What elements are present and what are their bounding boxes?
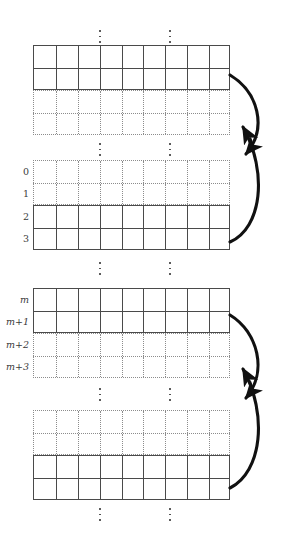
cell-separator bbox=[100, 334, 101, 356]
cell-separator bbox=[56, 411, 57, 433]
cell-separator bbox=[143, 161, 144, 183]
cell-separator bbox=[209, 434, 210, 455]
cell-separator bbox=[143, 91, 144, 113]
cell-separator bbox=[143, 479, 144, 500]
cell-separator bbox=[56, 206, 57, 228]
cell-separator bbox=[187, 434, 188, 455]
cell-separator bbox=[100, 114, 101, 135]
block-3-row-0: m bbox=[33, 288, 230, 311]
cell-separator bbox=[78, 91, 79, 113]
cell-separator bbox=[143, 312, 144, 333]
cell-separator bbox=[187, 161, 188, 183]
vertical-ellipsis-icon bbox=[99, 30, 101, 43]
arrow-lower-down bbox=[230, 315, 258, 398]
row-index-label: 1 bbox=[23, 189, 29, 199]
cell-separator bbox=[187, 46, 188, 68]
cell-separator bbox=[100, 184, 101, 205]
row-index-label: m+3 bbox=[6, 362, 29, 372]
cell-separator bbox=[143, 46, 144, 68]
cell-separator bbox=[78, 46, 79, 68]
cell-separator bbox=[187, 312, 188, 333]
cell-separator bbox=[56, 91, 57, 113]
cell-separator bbox=[56, 312, 57, 333]
block-1-row-1 bbox=[33, 68, 230, 91]
cell-separator bbox=[209, 161, 210, 183]
cell-separator bbox=[143, 229, 144, 250]
vertical-ellipsis-icon bbox=[99, 143, 101, 156]
cell-separator bbox=[187, 69, 188, 90]
memory-layout-diagram: 0123mm+1m+2m+3 bbox=[0, 0, 295, 538]
cell-separator bbox=[122, 456, 123, 478]
cell-separator bbox=[56, 46, 57, 68]
cell-separator bbox=[143, 289, 144, 311]
cell-separator bbox=[100, 357, 101, 378]
cell-separator bbox=[56, 479, 57, 500]
cell-separator bbox=[100, 456, 101, 478]
cell-separator bbox=[56, 289, 57, 311]
cell-separator bbox=[100, 312, 101, 333]
cell-separator bbox=[100, 206, 101, 228]
block-1 bbox=[33, 45, 230, 135]
cell-separator bbox=[122, 46, 123, 68]
cell-separator bbox=[78, 229, 79, 250]
block-2-row-1: 1 bbox=[33, 183, 230, 206]
cell-separator bbox=[165, 479, 166, 500]
block-3: mm+1m+2m+3 bbox=[33, 288, 230, 378]
block-3-row-1: m+1 bbox=[33, 311, 230, 334]
cell-separator bbox=[165, 357, 166, 378]
arrow-upper-down bbox=[230, 75, 258, 154]
cell-separator bbox=[122, 229, 123, 250]
cell-separator bbox=[209, 229, 210, 250]
vertical-ellipsis-icon bbox=[169, 143, 171, 156]
row-index-label: m bbox=[20, 295, 29, 305]
row-index-label: m+1 bbox=[6, 317, 29, 327]
cell-separator bbox=[187, 91, 188, 113]
cell-separator bbox=[78, 357, 79, 378]
cell-separator bbox=[78, 114, 79, 135]
row-index-label: 0 bbox=[23, 167, 29, 177]
block-1-row-0 bbox=[33, 45, 230, 68]
cell-separator bbox=[187, 456, 188, 478]
cell-separator bbox=[78, 411, 79, 433]
vertical-ellipsis-icon bbox=[169, 262, 171, 275]
cell-separator bbox=[165, 229, 166, 250]
cell-separator bbox=[100, 91, 101, 113]
arrow-lower-up bbox=[230, 369, 258, 488]
cell-separator bbox=[122, 91, 123, 113]
cell-separator bbox=[209, 411, 210, 433]
cell-separator bbox=[187, 229, 188, 250]
cell-separator bbox=[56, 456, 57, 478]
cell-separator bbox=[187, 206, 188, 228]
cell-separator bbox=[165, 114, 166, 135]
cell-separator bbox=[56, 334, 57, 356]
cell-separator bbox=[100, 479, 101, 500]
cell-separator bbox=[165, 206, 166, 228]
cell-separator bbox=[56, 434, 57, 455]
cell-separator bbox=[209, 114, 210, 135]
cell-separator bbox=[100, 69, 101, 90]
cell-separator bbox=[187, 289, 188, 311]
arrow-upper-up bbox=[230, 127, 258, 242]
cell-separator bbox=[122, 479, 123, 500]
cell-separator bbox=[143, 184, 144, 205]
vertical-ellipsis-icon bbox=[99, 508, 101, 521]
cell-separator bbox=[165, 69, 166, 90]
cell-separator bbox=[165, 456, 166, 478]
cell-separator bbox=[143, 434, 144, 455]
cell-separator bbox=[165, 91, 166, 113]
cell-separator bbox=[187, 411, 188, 433]
cell-separator bbox=[122, 434, 123, 455]
block-3-row-2: m+2 bbox=[33, 333, 230, 356]
cell-separator bbox=[100, 289, 101, 311]
vertical-ellipsis-icon bbox=[99, 262, 101, 275]
cell-separator bbox=[143, 411, 144, 433]
cell-separator bbox=[165, 289, 166, 311]
cell-separator bbox=[100, 229, 101, 250]
cell-separator bbox=[122, 411, 123, 433]
cell-separator bbox=[187, 357, 188, 378]
cell-separator bbox=[78, 69, 79, 90]
cell-separator bbox=[78, 161, 79, 183]
cell-separator bbox=[56, 184, 57, 205]
vertical-ellipsis-icon bbox=[169, 508, 171, 521]
cell-separator bbox=[209, 479, 210, 500]
